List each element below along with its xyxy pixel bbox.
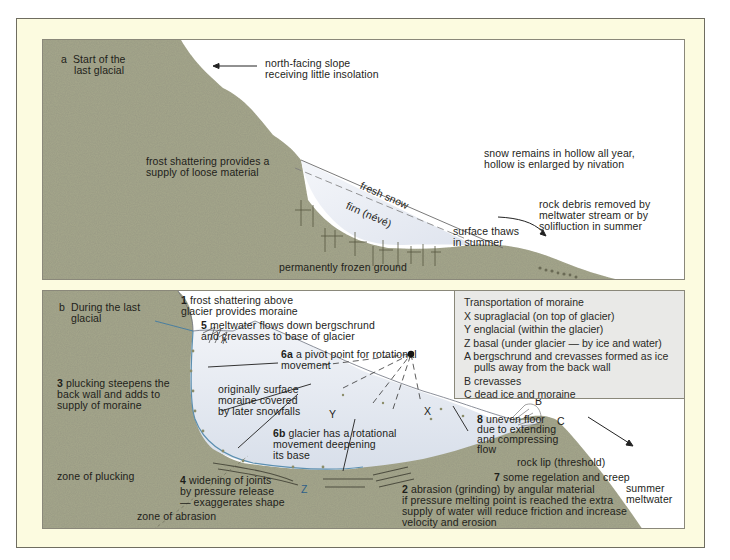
legend-item-b: B crevasses (464, 375, 685, 389)
arrow-north-slope (213, 64, 257, 69)
label-6b-line3: its base (273, 450, 310, 461)
legend-title: Transportation of moraine (464, 296, 685, 310)
label-zone-plucking: zone of plucking (57, 471, 134, 482)
marker-c: C (557, 416, 565, 427)
marker-y: Y (329, 409, 336, 420)
panel-a-start-of-last-glacial: a Start of the last glacial north-facing… (42, 39, 685, 280)
label-frost-2: supply of loose material (146, 167, 259, 178)
label-8-line4: flow (477, 444, 496, 455)
panel-a-title-line2: last glacial (74, 65, 124, 76)
label-6a-line2: movement (281, 360, 331, 371)
label-north-slope-2: receiving little insolation (265, 69, 379, 80)
legend-item-z: Z basal (under glacier — by ice and wate… (464, 337, 685, 351)
marker-a: A (221, 335, 227, 346)
label-7: 7 some regelation and creep (494, 472, 630, 483)
panel-b-during-last-glacial: b During the last glacial 1 frost shatte… (42, 290, 685, 529)
label-rock-debris-3: solifluction in summer (539, 221, 642, 232)
legend-item-y: Y englacial (within the glacier) (464, 323, 685, 337)
label-snow-hollow-2: hollow is enlarged by nivation (484, 159, 624, 170)
label-4-line3: — exaggerates shape (180, 497, 285, 508)
label-1-line2: glacier provides moraine (181, 306, 298, 317)
legend-transportation-of-moraine: Transportation of moraine X supraglacial… (454, 290, 685, 399)
legend-item-c: C dead ice and moraine (464, 388, 685, 402)
legend-item-x: X supraglacial (on top of glacier) (464, 310, 685, 324)
label-summer-meltwater-2: meltwater (626, 494, 672, 505)
label-zone-abrasion: zone of abrasion (137, 511, 216, 522)
meltwater-arrow (588, 417, 633, 446)
label-surface-thaws-2: in summer (453, 237, 503, 248)
marker-x: X (424, 406, 431, 417)
panel-b-title-line2: glacial (71, 313, 101, 324)
marker-z: Z (301, 484, 308, 495)
label-orig-moraine-3: by later snowfalls (218, 406, 300, 417)
label-2-line4: velocity and erosion (402, 517, 497, 528)
label-frozen-ground: permanently frozen ground (279, 262, 407, 273)
label-3-line3: supply of moraine (57, 400, 142, 411)
label-rock-lip: rock lip (threshold) (517, 457, 605, 468)
